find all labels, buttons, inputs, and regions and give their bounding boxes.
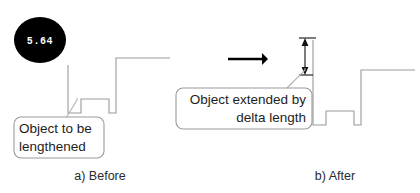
- badge-label: 5.64: [27, 36, 53, 47]
- figure-root: 5.64 Object to be lengthened: [0, 0, 420, 193]
- transformation-arrow-head: [262, 53, 268, 65]
- before-callout: Object to be lengthened: [14, 117, 104, 158]
- after-object-profile: [313, 40, 415, 125]
- delta-dimension-arrowhead-top: [302, 38, 309, 46]
- before-object-profile: [68, 58, 170, 113]
- before-callout-line-1: Object to be: [19, 121, 92, 136]
- diagram-canvas: 5.64 Object to be lengthened: [0, 0, 420, 193]
- caption-after: b) After: [315, 169, 355, 183]
- after-callout-line-2: delta length: [236, 110, 306, 125]
- before-callout-line-2: lengthened: [19, 139, 86, 154]
- after-callout-leader: [287, 68, 305, 88]
- transformation-arrow: [228, 53, 268, 65]
- figure-number-badge: 5.64: [14, 17, 66, 63]
- after-callout: Object extended by delta length: [176, 88, 312, 129]
- after-callout-line-1: Object extended by: [190, 92, 307, 107]
- caption-before: a) Before: [74, 169, 125, 183]
